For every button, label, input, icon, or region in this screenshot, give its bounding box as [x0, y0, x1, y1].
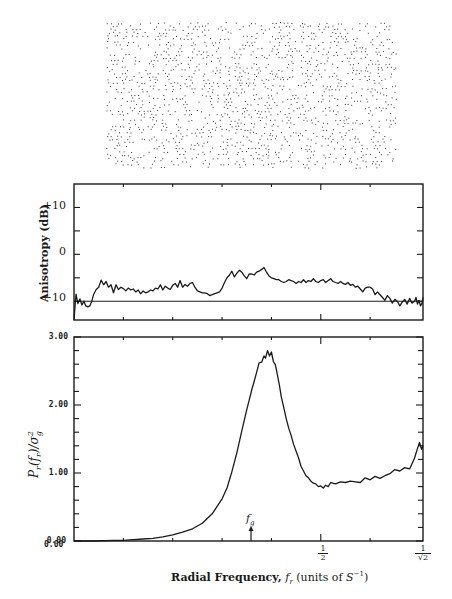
ytick-3: 3.00	[24, 332, 68, 341]
xtick-0: 0.00	[44, 540, 88, 549]
ytick-2: 2.00	[24, 400, 68, 409]
xtick-half: 1 2	[318, 545, 328, 562]
ytick-plus10: +10	[26, 199, 66, 212]
fg-annotation: fg	[246, 512, 255, 527]
halftone-dot-pattern	[106, 22, 397, 169]
ytick-0: 0	[26, 245, 66, 258]
fg-arrow-icon	[249, 526, 254, 541]
anisotropy-frame	[74, 184, 423, 320]
xtick-inv-root2: 1 √2	[415, 545, 431, 562]
anisotropy-series	[74, 268, 423, 321]
anisotropy-ticks	[74, 184, 423, 320]
ytick-1: 1.00	[24, 468, 68, 477]
ytick-minus10: −10	[26, 291, 66, 304]
power-spectrum-frame	[74, 337, 423, 541]
figure	[0, 0, 452, 599]
power-spectrum-chart	[74, 337, 423, 541]
anisotropy-chart	[74, 184, 423, 320]
power-spectrum-xlabel: Radial Frequency, fr (units of S−1)	[171, 570, 368, 586]
power-spectrum-ticks	[74, 337, 423, 541]
